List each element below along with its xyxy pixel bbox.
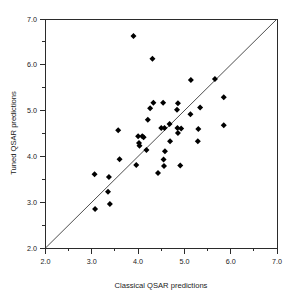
data-point-marker	[188, 77, 194, 83]
data-point-marker	[195, 138, 201, 144]
data-point-marker	[150, 100, 156, 106]
y-tick-label: 5.0	[27, 106, 37, 115]
data-point-marker	[197, 104, 203, 110]
data-point-marker	[167, 138, 173, 144]
data-point-marker	[92, 171, 98, 177]
data-point-marker	[195, 126, 201, 132]
data-point-marker	[106, 174, 112, 180]
x-axis-title: Classical QSAR predictions	[115, 281, 208, 290]
data-point-marker	[117, 156, 123, 162]
data-point-marker	[160, 100, 166, 106]
data-point-marker	[130, 33, 136, 39]
data-point-marker	[161, 163, 167, 169]
data-point-marker	[105, 189, 111, 195]
data-point-marker	[143, 147, 149, 153]
x-tick-label: 2.0	[41, 257, 51, 266]
x-tick-label: 6.0	[226, 257, 236, 266]
data-point-marker	[221, 94, 227, 100]
data-point-marker	[161, 125, 167, 131]
data-point-marker	[133, 162, 139, 168]
identity-line	[46, 19, 278, 248]
data-point-marker	[177, 163, 183, 169]
y-tick-label: 2.0	[27, 244, 37, 253]
data-point-marker	[161, 157, 167, 163]
x-tick-label: 4.0	[133, 257, 143, 266]
x-tick-label: 7.0	[272, 257, 282, 266]
scatter-plot-figure: 2.03.04.05.06.07.02.03.04.05.06.07.0 Cla…	[0, 0, 296, 293]
data-point-marker	[175, 100, 181, 106]
y-axis-title: Tuned QSAR predictions	[9, 91, 18, 175]
data-point-marker	[115, 127, 121, 133]
data-point-marker	[212, 76, 218, 82]
x-tick-label: 5.0	[179, 257, 189, 266]
y-tick-label: 6.0	[27, 60, 37, 69]
y-tick-label: 7.0	[27, 15, 37, 24]
data-point-marker	[187, 111, 193, 117]
x-tick-label: 3.0	[87, 257, 97, 266]
y-tick-label: 3.0	[27, 198, 37, 207]
data-point-marker	[107, 201, 113, 207]
data-point-marker	[175, 130, 181, 136]
plot-canvas: 2.03.04.05.06.07.02.03.04.05.06.07.0 Cla…	[0, 0, 296, 293]
data-point-marker	[92, 206, 98, 212]
data-points-group	[92, 33, 227, 212]
data-point-marker	[221, 122, 227, 128]
data-point-marker	[155, 170, 161, 176]
data-point-marker	[178, 125, 184, 131]
y-tick-label: 4.0	[27, 152, 37, 161]
identity-reference-line	[46, 19, 278, 248]
data-point-marker	[149, 56, 155, 62]
data-point-marker	[162, 148, 168, 154]
data-point-marker	[167, 121, 173, 127]
data-point-marker	[145, 117, 151, 123]
data-point-marker	[147, 105, 153, 111]
data-point-marker	[174, 107, 180, 113]
